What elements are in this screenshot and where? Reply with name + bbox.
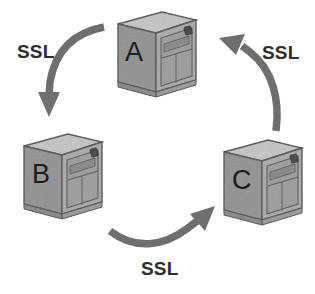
server-label-a: A (125, 39, 143, 66)
server-node-b[interactable]: B (18, 130, 106, 222)
diagram-canvas: A B (0, 0, 315, 294)
server-label-b: B (32, 161, 50, 188)
arrow-head-c-to-a (219, 34, 245, 55)
connection-label-c-to-a: SSL (262, 43, 300, 62)
arrow-shaft-a-to-b (49, 27, 104, 96)
connection-b-to-c (110, 206, 215, 244)
connection-label-a-to-b: SSL (17, 42, 55, 61)
connection-label-b-to-c: SSL (141, 259, 179, 278)
server-node-c[interactable]: C (218, 136, 306, 228)
server-label-c: C (232, 167, 252, 194)
server-node-a[interactable]: A (112, 8, 200, 100)
arrow-shaft-b-to-c (110, 221, 197, 244)
arrow-head-a-to-b (38, 92, 60, 117)
